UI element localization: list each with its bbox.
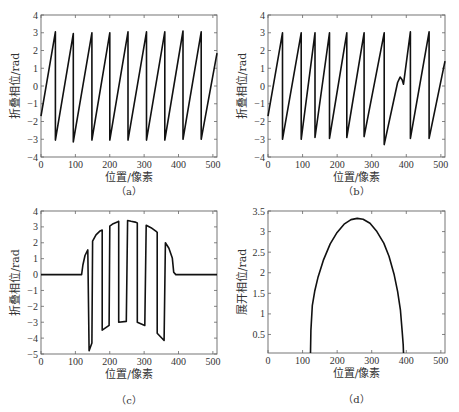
x-tick-label: 400 bbox=[399, 159, 414, 170]
panel-c: 0100200300400500−5−4−3−2−101234位置/像素折叠相位… bbox=[8, 206, 220, 407]
y-tick-label: 2.5 bbox=[253, 247, 266, 258]
x-tick-label: 0 bbox=[266, 355, 271, 366]
axes-frame bbox=[41, 211, 217, 354]
y-tick-label: 0.5 bbox=[253, 329, 266, 340]
y-tick-label: −4 bbox=[254, 152, 265, 163]
y-tick-label: 2 bbox=[260, 45, 265, 56]
x-axis-label: 位置/像素 bbox=[105, 170, 153, 184]
panel-caption: （d） bbox=[343, 394, 369, 405]
y-tick-label: 4 bbox=[33, 206, 38, 217]
y-tick-label: −2 bbox=[254, 116, 265, 127]
x-tick-label: 300 bbox=[137, 159, 152, 170]
x-tick-label: 400 bbox=[171, 159, 186, 170]
x-axis-label: 位置/像素 bbox=[105, 367, 153, 381]
y-tick-label: 0 bbox=[33, 81, 38, 92]
data-series-line bbox=[41, 31, 217, 142]
panel-caption: （c） bbox=[116, 395, 142, 406]
y-tick-label: 3 bbox=[260, 226, 265, 237]
y-tick-label: −2 bbox=[27, 301, 38, 312]
x-tick-label: 100 bbox=[295, 355, 310, 366]
data-series-line bbox=[41, 221, 217, 351]
y-tick-label: 3 bbox=[33, 27, 38, 38]
x-tick-label: 300 bbox=[137, 356, 152, 367]
y-axis-label: 展开相位/rad bbox=[235, 249, 249, 316]
y-tick-label: 1 bbox=[260, 308, 265, 319]
x-tick-label: 100 bbox=[68, 356, 83, 367]
y-tick-label: −1 bbox=[27, 98, 38, 109]
x-tick-label: 200 bbox=[330, 159, 345, 170]
x-tick-label: 300 bbox=[364, 355, 379, 366]
y-tick-label: 1 bbox=[33, 63, 38, 74]
data-series-line bbox=[268, 32, 445, 145]
y-tick-label: −3 bbox=[254, 134, 265, 145]
y-tick-label: 0 bbox=[33, 269, 38, 280]
y-axis-label: 折叠相位/rad bbox=[8, 53, 22, 120]
y-tick-label: −5 bbox=[27, 349, 38, 360]
x-axis-label: 位置/像素 bbox=[333, 366, 381, 380]
x-tick-label: 500 bbox=[433, 355, 448, 366]
y-tick-label: −3 bbox=[27, 317, 38, 328]
x-tick-label: 500 bbox=[205, 356, 220, 367]
y-tick-label: −4 bbox=[27, 333, 38, 344]
y-tick-label: 1 bbox=[33, 253, 38, 264]
x-tick-label: 200 bbox=[330, 355, 345, 366]
panel-a: 0100200300400500−4−3−2−101234位置/像素折叠相位/r… bbox=[8, 10, 220, 198]
y-axis-label: 折叠相位/rad bbox=[8, 249, 22, 316]
y-tick-label: 2 bbox=[260, 267, 265, 278]
axes-frame bbox=[268, 211, 445, 353]
x-tick-label: 0 bbox=[39, 356, 44, 367]
axes-frame bbox=[268, 15, 445, 157]
x-tick-label: 400 bbox=[399, 355, 414, 366]
y-tick-label: 1.5 bbox=[253, 288, 266, 299]
y-tick-label: 2 bbox=[33, 45, 38, 56]
x-axis-label: 位置/像素 bbox=[333, 170, 381, 184]
x-tick-label: 200 bbox=[102, 159, 117, 170]
data-series-line bbox=[311, 218, 404, 353]
y-tick-label: 1 bbox=[260, 63, 265, 74]
panel-caption: （b） bbox=[343, 186, 369, 197]
figure: 0100200300400500−4−3−2−101234位置/像素折叠相位/r… bbox=[0, 0, 459, 412]
y-tick-label: 4 bbox=[260, 10, 265, 21]
panel-d: 01002003004005000.511.522.533.5位置/像素展开相位… bbox=[235, 206, 448, 406]
panel-b: 0100200300400500−4−3−2−101234位置/像素折叠相位/r… bbox=[235, 10, 448, 198]
y-tick-label: −1 bbox=[254, 98, 265, 109]
y-tick-label: 3 bbox=[33, 221, 38, 232]
x-tick-label: 100 bbox=[295, 159, 310, 170]
x-tick-label: 0 bbox=[266, 159, 271, 170]
x-tick-label: 300 bbox=[364, 159, 379, 170]
x-tick-label: 200 bbox=[102, 356, 117, 367]
y-tick-label: 3.5 bbox=[253, 206, 266, 217]
y-tick-label: 3 bbox=[260, 27, 265, 38]
y-tick-label: −1 bbox=[27, 285, 38, 296]
y-tick-label: 2 bbox=[33, 237, 38, 248]
y-tick-label: −2 bbox=[27, 116, 38, 127]
x-tick-label: 500 bbox=[433, 159, 448, 170]
y-tick-label: −3 bbox=[27, 134, 38, 145]
x-tick-label: 500 bbox=[205, 159, 220, 170]
x-tick-label: 0 bbox=[39, 159, 44, 170]
y-tick-label: −4 bbox=[27, 152, 38, 163]
panel-caption: （a） bbox=[116, 186, 142, 197]
x-tick-label: 100 bbox=[68, 159, 83, 170]
y-axis-label: 折叠相位/rad bbox=[235, 53, 249, 120]
y-tick-label: 0 bbox=[260, 81, 265, 92]
x-tick-label: 400 bbox=[171, 356, 186, 367]
y-tick-label: 4 bbox=[33, 10, 38, 21]
